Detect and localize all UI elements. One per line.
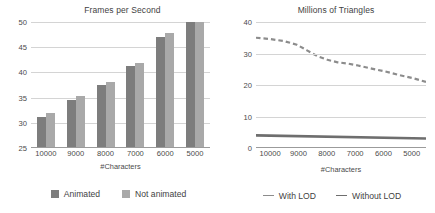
bar-group bbox=[180, 22, 210, 147]
right-x-tick-labels: 1000090008000700060005000 bbox=[256, 149, 426, 158]
left-bar-groups bbox=[31, 22, 210, 147]
left-plot-wrap: 50 45 40 35 30 25 bbox=[0, 22, 217, 148]
panel-millions-of-triangles: Millions of Triangles 40 30 20 10 0 1000… bbox=[217, 0, 435, 213]
right-ytick-10: 10 bbox=[244, 112, 252, 121]
right-xtick: 6000 bbox=[369, 149, 397, 158]
right-legend-item: With LOD bbox=[263, 191, 316, 201]
figure-two-panel-charts: Frames per Second 50 45 40 35 30 25 10 bbox=[0, 0, 435, 213]
panel-frames-per-second: Frames per Second 50 45 40 35 30 25 10 bbox=[0, 0, 217, 213]
left-plot-area: 50 45 40 35 30 25 bbox=[31, 22, 210, 148]
left-legend-item: Animated bbox=[51, 189, 100, 199]
right-xtick: 7000 bbox=[341, 149, 369, 158]
left-chart-title: Frames per Second bbox=[0, 5, 231, 15]
bar-animated bbox=[156, 37, 165, 147]
left-xtick: 9000 bbox=[61, 149, 91, 158]
legend-swatch-icon bbox=[51, 190, 59, 198]
bar-animated bbox=[67, 100, 76, 148]
left-xtick: 8000 bbox=[91, 149, 121, 158]
right-ytick-30: 30 bbox=[244, 49, 252, 58]
legend-swatch-icon bbox=[122, 190, 130, 198]
bar-not-animated bbox=[76, 96, 85, 147]
left-xtick: 5000 bbox=[180, 149, 210, 158]
right-gridline-20 bbox=[256, 85, 426, 86]
legend-dashed-line-icon bbox=[263, 195, 274, 196]
left-xtick: 10000 bbox=[31, 149, 61, 158]
bar-not-animated bbox=[135, 63, 144, 148]
bar-animated bbox=[186, 22, 195, 147]
right-chart-title: Millions of Triangles bbox=[217, 5, 435, 15]
left-ytick-50: 50 bbox=[19, 18, 27, 27]
right-xtick: 10000 bbox=[256, 149, 284, 158]
right-xtick: 9000 bbox=[284, 149, 312, 158]
bar-group bbox=[91, 22, 121, 147]
line-series-without-lod bbox=[256, 135, 426, 138]
bar-group bbox=[120, 22, 150, 147]
line-series-with-lod bbox=[256, 38, 426, 82]
right-legend-item: Without LOD bbox=[336, 191, 401, 201]
bar-group bbox=[31, 22, 61, 147]
left-ytick-40: 40 bbox=[19, 68, 27, 77]
bar-group bbox=[61, 22, 91, 147]
left-legend-label: Not animated bbox=[135, 189, 186, 199]
right-gridline-10 bbox=[256, 117, 426, 118]
right-plot-area: 40 30 20 10 0 bbox=[256, 22, 426, 148]
right-gridline-30 bbox=[256, 54, 426, 55]
right-xtick: 5000 bbox=[398, 149, 426, 158]
left-legend-label: Animated bbox=[64, 189, 100, 199]
left-x-tick-labels: 1000090008000700060005000 bbox=[31, 149, 210, 158]
right-ytick-40: 40 bbox=[244, 18, 252, 27]
left-legend-item: Not animated bbox=[122, 189, 186, 199]
left-ytick-30: 30 bbox=[19, 118, 27, 127]
bar-not-animated bbox=[46, 113, 55, 147]
left-x-axis-line bbox=[31, 147, 210, 148]
right-x-axis-line bbox=[256, 147, 426, 148]
bar-animated bbox=[97, 85, 106, 147]
right-legend-label: With LOD bbox=[279, 191, 316, 201]
right-legend-label: Without LOD bbox=[352, 191, 401, 201]
bar-animated bbox=[37, 117, 46, 147]
bar-not-animated bbox=[165, 33, 174, 148]
right-xtick: 8000 bbox=[313, 149, 341, 158]
bar-animated bbox=[126, 66, 135, 147]
left-ytick-35: 35 bbox=[19, 93, 27, 102]
right-ytick-20: 20 bbox=[244, 81, 252, 90]
bar-not-animated bbox=[106, 82, 115, 147]
right-legend: With LODWithout LOD bbox=[217, 191, 435, 201]
right-plot-wrap: 40 30 20 10 0 bbox=[217, 22, 435, 148]
right-gridline-40 bbox=[256, 22, 426, 23]
right-ytick-0: 0 bbox=[248, 144, 252, 153]
left-ytick-45: 45 bbox=[19, 43, 27, 52]
left-ytick-25: 25 bbox=[19, 144, 27, 153]
right-x-axis-label: #Characters bbox=[256, 165, 426, 174]
bar-group bbox=[150, 22, 180, 147]
left-xtick: 7000 bbox=[120, 149, 150, 158]
left-legend: AnimatedNot animated bbox=[0, 189, 227, 199]
left-x-axis-label: #Characters bbox=[31, 162, 210, 171]
left-xtick: 6000 bbox=[150, 149, 180, 158]
bar-not-animated bbox=[195, 22, 204, 147]
legend-solid-line-icon bbox=[336, 195, 347, 196]
